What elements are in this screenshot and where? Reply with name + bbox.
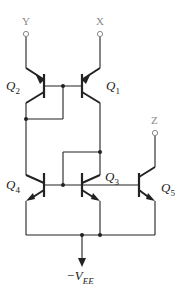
- vee-label: −VEE: [66, 268, 94, 286]
- terminal-z-circle: [152, 130, 157, 135]
- circuit-diagram: Y X Z Q2 Q1 Q4 Q3 Q5 −VEE: [0, 0, 181, 292]
- terminal-z-label: Z: [151, 114, 158, 126]
- terminal-x-label: X: [96, 15, 104, 27]
- terminal-y-circle: [23, 31, 28, 36]
- q1-label: Q1: [106, 78, 120, 96]
- terminal-x-circle: [97, 31, 102, 36]
- q5-label: Q5: [161, 180, 175, 198]
- q4-label: Q4: [6, 177, 20, 195]
- q3-label: Q3: [105, 169, 119, 187]
- schematic-svg: [0, 0, 181, 292]
- q2-label: Q2: [6, 78, 20, 96]
- terminal-y-label: Y: [22, 15, 30, 27]
